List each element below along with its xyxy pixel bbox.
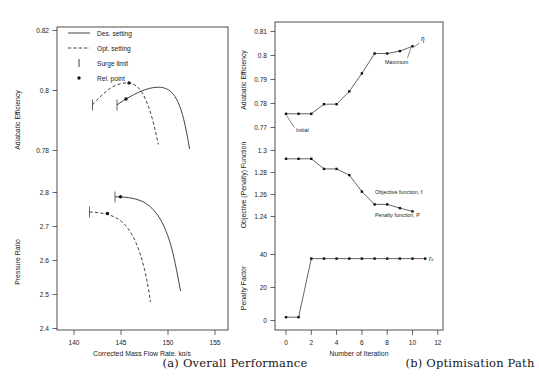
y-tick-label: 0.79 (254, 76, 267, 83)
x-tick-label: 4 (335, 339, 339, 346)
rel-point-marker-opt-efficiency (127, 81, 130, 84)
y-tick-label: 0.78 (254, 100, 267, 107)
series-des-setting-pressure (115, 197, 181, 291)
x-tick-label: 145 (115, 339, 126, 346)
plot-frame-a (57, 27, 228, 330)
y-tick-label: 2.8 (40, 189, 49, 196)
penalty-factor-data-markers (285, 257, 427, 318)
x-tick-label: 2 (309, 339, 313, 346)
y-tick-label: 0.8 (40, 87, 49, 94)
y-axis-ticks-efficiency-b: 0.81 0.8 0.79 0.78 0.77 (254, 28, 275, 131)
legend-symbol-filled-dot-icon (77, 76, 80, 79)
series-efficiency-b (285, 45, 414, 115)
y-tick-label: 0.78 (36, 147, 49, 154)
initial-leader-line (287, 116, 295, 128)
panel-b-optimisation-path: 0.81 0.8 0.79 0.78 0.77 Adiabatic Effici… (235, 0, 470, 388)
x-tick-label: 150 (162, 339, 173, 346)
plot-frame-b (275, 22, 443, 330)
y-axis-title-efficiency-a: Adiabatic Efficiency (14, 90, 22, 150)
y-axis-title-objective-b: Objective (Penalty) Function (240, 142, 248, 229)
objective-data-markers (285, 158, 414, 213)
legend-label: Surge limit (97, 60, 128, 68)
y-tick-label: 2.6 (40, 257, 49, 264)
y-tick-label: 1.26 (254, 191, 267, 198)
eta-leader-line (414, 43, 420, 47)
rel-point-marker-des-efficiency (124, 97, 127, 100)
maximum-leader-line (408, 48, 412, 59)
y-axis-ticks-efficiency-a: 0.82 0.8 0.78 (36, 27, 57, 154)
y-tick-label: 1.24 (254, 213, 267, 220)
legend-label: Opt. setting (97, 45, 131, 53)
annotation-maximum: Maximum (385, 59, 409, 65)
x-tick-label: 10 (409, 339, 417, 346)
annotation-eta-symbol: η (421, 35, 425, 43)
rel-point-marker-opt-pressure (106, 212, 109, 215)
annotation-initial: Initial (296, 127, 309, 133)
x-axis-ticks-b: 0 2 4 6 8 10 12 (284, 330, 442, 346)
y-tick-label: 1.28 (254, 169, 267, 176)
y-tick-label: 0.77 (254, 124, 267, 131)
legend-label: Des. setting (97, 30, 132, 38)
x-tick-label: 140 (68, 339, 79, 346)
annotation-penalty-factor-symbol: rₖ (429, 255, 434, 262)
annotation-objective-function: Objective function, f (375, 189, 423, 195)
panel-a-svg: 0.82 0.8 0.78 Adiabatic Efficiency 2.8 2… (0, 0, 235, 356)
rel-point-marker-des-pressure (119, 195, 122, 198)
series-objective-function-b (285, 158, 414, 213)
y-axis-ticks-penalty-b: 40 20 0 (260, 251, 275, 324)
y-tick-label: 20 (260, 284, 268, 291)
panel-a-overall-performance: 0.82 0.8 0.78 Adiabatic Efficiency 2.8 2… (0, 0, 235, 388)
y-tick-label: 2.7 (40, 223, 49, 230)
y-axis-title-efficiency-b: Adiabatic Efficiency (240, 50, 248, 110)
y-axis-title-penalty-b: Penalty Factor (240, 265, 248, 310)
panel-b-svg: 0.81 0.8 0.79 0.78 0.77 Adiabatic Effici… (235, 0, 470, 356)
y-tick-label: 0.81 (254, 28, 267, 35)
y-axis-ticks-objective-b: 1.3 1.28 1.26 1.24 (254, 147, 275, 220)
y-tick-label: 0.82 (36, 27, 49, 34)
y-tick-label: 0.8 (258, 52, 267, 59)
caption-panel-b: (b) Optimisation Path (235, 356, 539, 370)
y-axis-ticks-pressure-a: 2.8 2.7 2.6 2.5 2.4 (40, 189, 57, 332)
x-tick-label: 12 (434, 339, 442, 346)
y-axis-title-pressure-a: Pressure Ratio (14, 239, 21, 285)
legend-a: Des. setting Opt. setting Surge limit Re… (68, 30, 132, 83)
x-tick-label: 0 (284, 339, 288, 346)
efficiency-data-markers (285, 45, 414, 115)
y-tick-label: 40 (260, 251, 268, 258)
annotation-penalty-function: Penalty function, P (375, 212, 420, 218)
y-tick-label: 0 (263, 317, 267, 324)
legend-label: Rel. point (97, 75, 125, 83)
y-tick-label: 2.5 (40, 291, 49, 298)
x-tick-label: 8 (385, 339, 389, 346)
series-des-setting-efficiency (117, 87, 190, 149)
x-tick-label: 155 (209, 339, 220, 346)
y-tick-label: 2.4 (40, 325, 49, 332)
series-opt-setting-pressure (90, 212, 151, 302)
series-opt-setting-efficiency (93, 83, 159, 145)
series-penalty-factor-b (285, 257, 427, 318)
x-axis-ticks-a: 140 145 150 155 (68, 330, 220, 346)
x-tick-label: 6 (360, 339, 364, 346)
y-tick-label: 1.3 (258, 147, 267, 154)
